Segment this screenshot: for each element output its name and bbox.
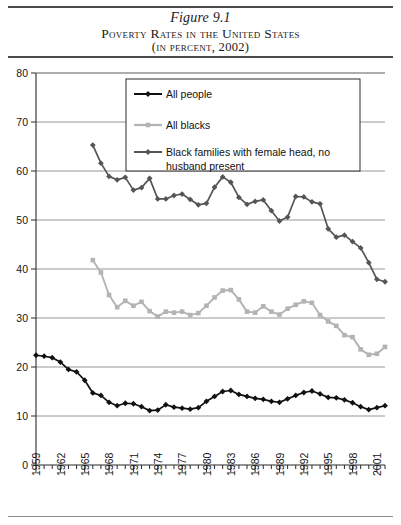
- data-point: [350, 400, 356, 406]
- data-point: [382, 279, 388, 285]
- data-point: [245, 309, 250, 314]
- x-tick-label-1968: 1968: [103, 452, 115, 476]
- data-point: [277, 399, 283, 405]
- data-point: [309, 388, 315, 394]
- y-tick-label-30: 30: [16, 312, 28, 324]
- x-axis-group: 1959196219651968197119741977198019831986…: [30, 452, 385, 476]
- data-point: [375, 351, 380, 356]
- data-point: [164, 309, 169, 314]
- data-point: [333, 395, 339, 401]
- x-tick-label-1974: 1974: [152, 452, 164, 476]
- data-point: [374, 405, 380, 411]
- x-tick-label-1983: 1983: [225, 452, 237, 476]
- data-point: [187, 406, 193, 412]
- data-point: [318, 313, 323, 318]
- data-point: [260, 396, 266, 402]
- data-point: [310, 301, 315, 306]
- data-point: [196, 311, 201, 316]
- poverty-rates-line-chart: 01020304050607080 1959196219651968197119…: [0, 58, 401, 516]
- y-tick-label-0: 0: [22, 459, 28, 471]
- y-tick-label-40: 40: [16, 263, 28, 275]
- data-point: [171, 404, 177, 410]
- data-point: [317, 201, 323, 207]
- data-point: [342, 397, 348, 403]
- data-point: [139, 404, 145, 410]
- x-tick-label-1995: 1995: [322, 452, 334, 476]
- data-point: [114, 403, 120, 409]
- data-point: [382, 403, 388, 409]
- data-series-group: [33, 142, 388, 413]
- legend-label-2-line2: husband present: [166, 160, 244, 172]
- y-tick-label-50: 50: [16, 214, 28, 226]
- data-point: [123, 299, 128, 304]
- figure-number: Figure 9.1: [0, 10, 401, 26]
- data-point: [130, 401, 136, 407]
- data-point: [115, 305, 120, 310]
- data-point: [163, 196, 169, 202]
- data-point: [285, 396, 291, 402]
- data-point: [301, 390, 307, 396]
- data-point: [155, 314, 160, 319]
- data-point: [366, 407, 372, 413]
- data-point: [252, 395, 258, 401]
- x-tick-label-1992: 1992: [298, 452, 310, 476]
- legend-label-1: All blacks: [166, 119, 210, 131]
- figure-page: Figure 9.1 Poverty Rates in the United S…: [0, 0, 401, 525]
- data-point: [293, 393, 299, 399]
- y-tick-label-70: 70: [16, 116, 28, 128]
- y-tick-label-60: 60: [16, 165, 28, 177]
- data-point: [350, 335, 355, 340]
- x-tick-label-1965: 1965: [79, 452, 91, 476]
- x-tick-label-2001: 2001: [371, 452, 383, 476]
- data-point: [293, 194, 299, 200]
- data-point: [131, 303, 136, 308]
- footer-rule: [8, 516, 393, 517]
- data-point: [326, 319, 331, 324]
- legend-swatch-marker-1: [146, 123, 151, 128]
- data-point: [139, 300, 144, 305]
- data-point: [171, 193, 177, 199]
- data-point: [293, 302, 298, 307]
- data-point: [33, 352, 39, 358]
- data-point: [107, 293, 112, 298]
- data-point: [99, 270, 104, 275]
- data-point: [212, 295, 217, 300]
- x-tick-label-1971: 1971: [128, 452, 140, 476]
- data-point: [269, 309, 274, 314]
- data-point: [155, 196, 161, 202]
- y-axis-group: 01020304050607080: [16, 67, 36, 471]
- data-point: [114, 177, 120, 183]
- data-point: [285, 306, 290, 311]
- data-point: [277, 312, 282, 317]
- y-tick-label-20: 20: [16, 361, 28, 373]
- data-point: [41, 353, 47, 359]
- data-point: [122, 400, 128, 406]
- data-point: [204, 303, 209, 308]
- x-tick-label-1986: 1986: [249, 452, 261, 476]
- x-tick-label-1980: 1980: [201, 452, 213, 476]
- y-tick-label-10: 10: [16, 410, 28, 422]
- data-point: [91, 258, 96, 263]
- data-point: [325, 394, 331, 400]
- chart-legend: All peopleAll blacksBlack families with …: [126, 79, 360, 172]
- data-point: [204, 200, 210, 206]
- data-point: [90, 142, 96, 148]
- series-0: [33, 352, 388, 413]
- x-tick-label-1989: 1989: [274, 452, 286, 476]
- chart-canvas: 01020304050607080 1959196219651968197119…: [0, 58, 401, 516]
- data-point: [302, 299, 307, 304]
- legend-label-0: All people: [166, 88, 212, 100]
- series-line-0: [36, 355, 385, 410]
- series-line-1: [93, 260, 385, 355]
- data-point: [172, 310, 177, 315]
- figure-subtitle: (in percent, 2002): [0, 40, 401, 55]
- data-point: [147, 309, 152, 314]
- data-point: [366, 352, 371, 357]
- data-point: [180, 309, 185, 314]
- data-point: [244, 394, 250, 400]
- data-point: [228, 288, 233, 293]
- x-tick-label-1977: 1977: [176, 452, 188, 476]
- data-point: [236, 392, 242, 398]
- data-point: [188, 313, 193, 318]
- data-point: [383, 345, 388, 350]
